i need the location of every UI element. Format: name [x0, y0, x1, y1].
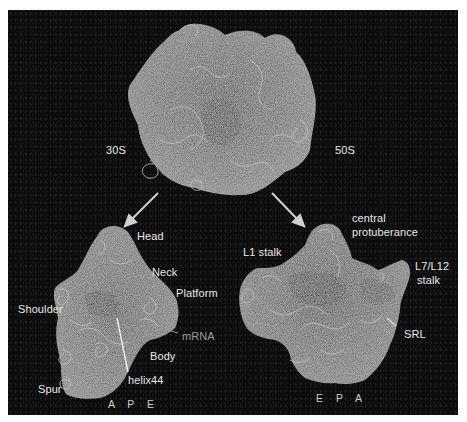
label-l7-l12: L7/L12	[415, 260, 449, 272]
ribosome-70s	[128, 24, 316, 195]
label-platform: Platform	[176, 287, 218, 299]
label-srl: SRL	[404, 328, 426, 340]
label-head: Head	[137, 230, 164, 242]
ribosome-30s	[54, 226, 179, 399]
label-mrna: mRNA	[182, 330, 215, 342]
arrow-to-50s	[272, 193, 304, 226]
label-shoulder: Shoulder	[18, 303, 63, 315]
label-helix44: helix44	[128, 374, 164, 386]
label-50s: 50S	[335, 144, 355, 156]
label-central: central	[352, 212, 386, 224]
label-sites-30s: A P E	[108, 398, 159, 410]
label-protuberance: protuberance	[352, 226, 418, 238]
label-neck: Neck	[152, 266, 177, 278]
label-l1-stalk: L1 stalk	[243, 246, 282, 258]
label-sites-50s: E P A	[316, 392, 367, 404]
label-body: Body	[150, 350, 175, 362]
ribosome-illustration	[0, 0, 467, 422]
label-l7-stalk: stalk	[417, 274, 440, 286]
label-spur: Spur	[38, 383, 62, 395]
arrow-to-30s	[125, 193, 158, 226]
label-30s: 30S	[106, 144, 126, 156]
